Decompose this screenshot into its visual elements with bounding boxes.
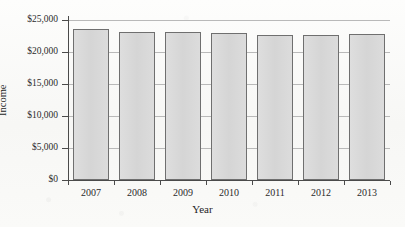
y-axis-tick: [62, 20, 69, 21]
x-axis-tick: [344, 181, 345, 185]
y-axis-tick-label: $5,000: [0, 143, 58, 153]
x-axis-tick-label-2012: 2012: [299, 187, 343, 199]
bar-fill: [258, 36, 292, 179]
bar-fill: [350, 35, 384, 179]
bar-fill: [304, 36, 338, 179]
x-axis-tick: [206, 181, 207, 185]
y-axis-tick: [62, 148, 69, 149]
bar-2013: [349, 34, 385, 180]
x-axis-tick: [252, 181, 253, 185]
y-axis-tick: [62, 116, 69, 117]
y-axis-tick-label: $25,000: [0, 15, 58, 25]
y-axis-tick-label: $0: [0, 175, 58, 185]
bar-chart-figure: $0$5,000$10,000$15,000$20,000$25,000 Inc…: [0, 0, 405, 227]
x-axis-tick-label-2009: 2009: [161, 187, 205, 199]
x-axis-tick: [68, 181, 69, 185]
y-axis-line: [68, 16, 69, 184]
bar-2011: [257, 35, 293, 180]
y-axis-tick: [62, 52, 69, 53]
x-axis-tick: [298, 181, 299, 185]
bar-2007: [73, 29, 109, 180]
x-axis-line: [62, 180, 390, 181]
y-axis-title-label: Income: [0, 85, 8, 117]
x-axis-tick-label-2010: 2010: [207, 187, 251, 199]
x-axis-tick-label-2013: 2013: [345, 187, 389, 199]
x-axis-tick: [114, 181, 115, 185]
cropped-chart-title: [108, 0, 278, 5]
y-axis-tick: [62, 84, 69, 85]
bar-fill: [212, 34, 246, 179]
bar-fill: [166, 33, 200, 179]
x-axis-tick: [390, 181, 391, 185]
plot-area: [68, 20, 390, 180]
x-axis-tick: [160, 181, 161, 185]
bar-fill: [120, 33, 154, 179]
x-axis-tick-label-2011: 2011: [253, 187, 297, 199]
x-axis-tick-label-2007: 2007: [69, 187, 113, 199]
x-axis-tick-label-2008: 2008: [115, 187, 159, 199]
y-axis-labels: $0$5,000$10,000$15,000$20,000$25,000: [0, 0, 58, 227]
bar-2009: [165, 32, 201, 180]
gridline: [68, 20, 390, 21]
y-axis-tick-label: $20,000: [0, 47, 58, 57]
bar-2012: [303, 35, 339, 180]
bar-2008: [119, 32, 155, 180]
bar-fill: [74, 30, 108, 179]
x-axis-title: Year: [0, 203, 405, 215]
y-axis-title: Income: [8, 115, 9, 116]
y-axis-tick-label: $15,000: [0, 79, 58, 89]
bar-2010: [211, 33, 247, 180]
